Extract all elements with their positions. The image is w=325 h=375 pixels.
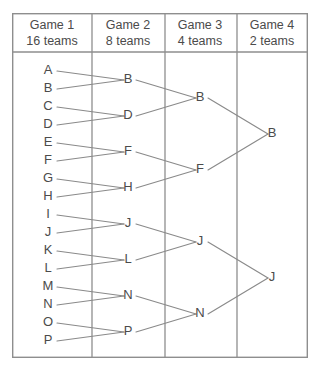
header-subtitle-game-1: 16 teams	[26, 34, 77, 48]
team-label-game-3-N-3: N	[195, 305, 204, 320]
team-label-game-2-H-3: H	[123, 179, 132, 194]
team-label-game-1-J-9: J	[45, 224, 52, 239]
team-label-game-1-H-7: H	[43, 188, 52, 203]
diagram-frame	[12, 14, 308, 358]
team-label-game-1-N-13: N	[43, 296, 52, 311]
team-label-game-4-B-0: B	[268, 125, 277, 140]
team-label-game-1-D-3: D	[43, 116, 52, 131]
header-title-game-1: Game 1	[30, 18, 75, 32]
team-label-game-2-D-1: D	[123, 107, 132, 122]
team-label-game-1-P-15: P	[44, 332, 53, 347]
team-label-game-1-O-14: O	[43, 314, 53, 329]
team-label-game-4-J-1: J	[269, 269, 276, 284]
diagram-border	[13, 14, 308, 358]
team-label-game-2-B-0: B	[124, 71, 133, 86]
team-label-game-3-J-2: J	[197, 233, 204, 248]
team-label-game-2-F-2: F	[124, 143, 132, 158]
header-title-game-4: Game 4	[250, 18, 295, 32]
team-label-game-2-L-5: L	[124, 251, 131, 266]
team-label-game-3-B-0: B	[196, 89, 205, 104]
team-label-game-2-P-7: P	[124, 323, 133, 338]
team-label-game-1-M-12: M	[43, 278, 54, 293]
tournament-bracket-diagram: Game 116 teamsGame 28 teamsGame 34 teams…	[0, 0, 325, 375]
team-label-game-1-B-1: B	[44, 80, 53, 95]
team-label-game-3-F-1: F	[196, 161, 204, 176]
header-title-game-2: Game 2	[106, 18, 151, 32]
team-label-game-1-C-2: C	[43, 98, 52, 113]
header-subtitle-game-4: 2 teams	[250, 34, 294, 48]
header-subtitle-game-2: 8 teams	[106, 34, 150, 48]
team-label-game-2-J-4: J	[125, 215, 132, 230]
header-title-game-3: Game 3	[178, 18, 223, 32]
team-label-game-1-K-10: K	[44, 242, 53, 257]
team-label-game-1-E-4: E	[44, 134, 53, 149]
team-label-game-1-F-5: F	[44, 152, 52, 167]
team-label-game-1-A-0: A	[44, 62, 53, 77]
header-subtitle-game-3: 4 teams	[178, 34, 222, 48]
team-label-game-2-N-6: N	[123, 287, 132, 302]
team-label-game-1-I-8: I	[46, 206, 50, 221]
bracket-canvas: Game 116 teamsGame 28 teamsGame 34 teams…	[0, 0, 325, 375]
team-label-game-1-G-6: G	[43, 170, 53, 185]
team-label-game-1-L-11: L	[44, 260, 51, 275]
